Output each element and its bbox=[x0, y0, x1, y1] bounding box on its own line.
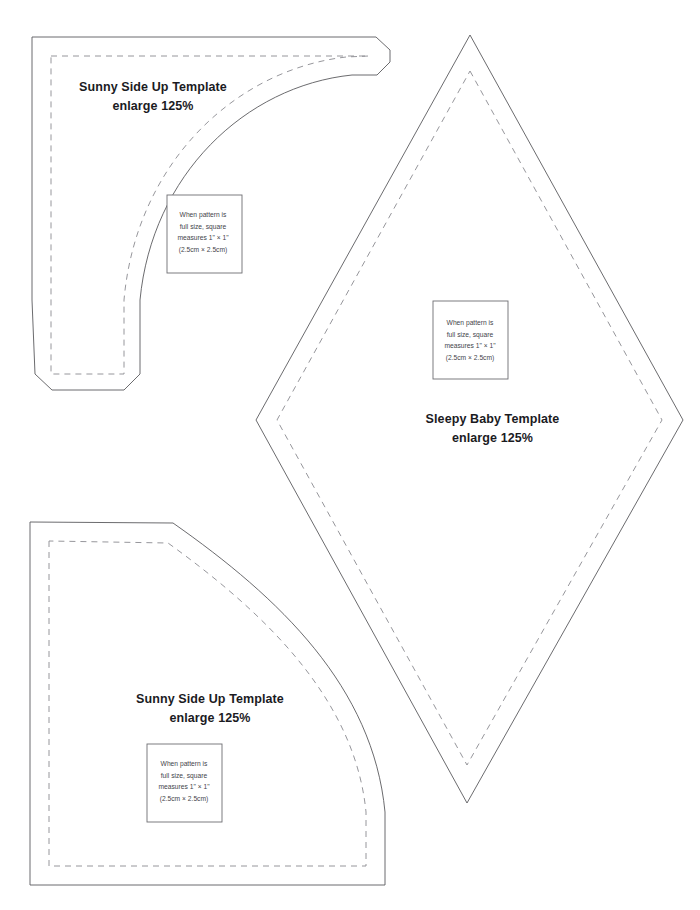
sunny-side-up-bottom-scale-note: When pattern is full size, square measur… bbox=[148, 758, 220, 804]
sunny-side-up-top-title: Sunny Side Up Template enlarge 125% bbox=[38, 78, 268, 117]
scale-note-line-1: When pattern is bbox=[167, 209, 239, 221]
scale-note-line-4: (2.5cm × 2.5cm) bbox=[167, 244, 239, 256]
scale-note-line-2: full size, square bbox=[434, 329, 506, 341]
scale-note-line-2: full size, square bbox=[167, 221, 239, 233]
sunny-side-up-top-title-name: Sunny Side Up Template bbox=[79, 80, 227, 94]
scale-note-line-1: When pattern is bbox=[434, 317, 506, 329]
sleepy-baby-scale-note: When pattern is full size, square measur… bbox=[434, 317, 506, 363]
scale-note-line-4: (2.5cm × 2.5cm) bbox=[434, 352, 506, 364]
sleepy-baby-enlarge: enlarge 125% bbox=[390, 429, 595, 448]
pattern-drawing bbox=[0, 0, 700, 910]
sunny-side-up-top-enlarge: enlarge 125% bbox=[38, 97, 268, 116]
sunny-side-up-bottom-title: Sunny Side Up Template enlarge 125% bbox=[95, 690, 325, 729]
scale-note-line-4: (2.5cm × 2.5cm) bbox=[148, 793, 220, 805]
scale-note-line-3: measures 1" × 1" bbox=[167, 232, 239, 244]
sleepy-baby-title: Sleepy Baby Template enlarge 125% bbox=[390, 410, 595, 449]
sunny-side-up-top-scale-note: When pattern is full size, square measur… bbox=[167, 209, 239, 255]
sleepy-baby-title-name: Sleepy Baby Template bbox=[426, 412, 560, 426]
sunny-side-up-bottom-title-name: Sunny Side Up Template bbox=[136, 692, 284, 706]
scale-note-line-2: full size, square bbox=[148, 770, 220, 782]
scale-note-line-3: measures 1" × 1" bbox=[148, 781, 220, 793]
scale-note-line-1: When pattern is bbox=[148, 758, 220, 770]
pattern-sheet: Sunny Side Up Template enlarge 125% When… bbox=[0, 0, 700, 910]
scale-note-line-3: measures 1" × 1" bbox=[434, 340, 506, 352]
sunny-side-up-bottom-enlarge: enlarge 125% bbox=[95, 709, 325, 728]
